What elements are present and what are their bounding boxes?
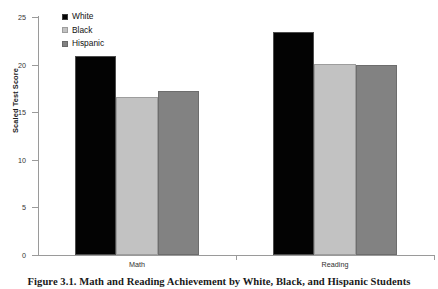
x-axis-separator-tick <box>236 255 237 260</box>
legend-swatch-icon <box>62 41 68 47</box>
bars-layer <box>38 17 434 255</box>
y-axis-tick-label: 0 <box>0 255 30 256</box>
x-axis-category-label: Math <box>38 261 236 269</box>
x-axis-separator-tick <box>434 255 435 260</box>
chart-legend: WhiteBlackHispanic <box>62 12 104 48</box>
legend-item-hispanic: Hispanic <box>62 39 104 48</box>
legend-swatch-icon <box>62 14 68 20</box>
y-axis-tick <box>32 255 38 256</box>
bar-reading-hispanic <box>356 65 398 255</box>
legend-item-black: Black <box>62 26 104 35</box>
y-axis-tick-label: 25 <box>0 17 30 18</box>
legend-item-label: Hispanic <box>72 39 104 47</box>
y-axis-tick-label-text: 0 <box>22 251 26 260</box>
y-axis-tick-label: 5 <box>0 207 30 208</box>
y-axis-title: Scaled Test Score <box>11 41 20 161</box>
bar-math-white <box>75 56 117 255</box>
figure-container: 0510152025 Scaled Test Score MathReading… <box>0 0 438 289</box>
legend-item-label: Black <box>72 26 92 34</box>
x-axis-category-label: Reading <box>236 261 434 269</box>
y-axis-tick-label-text: 5 <box>22 203 26 212</box>
y-axis-tick-label-text: 25 <box>18 13 26 22</box>
bar-reading-black <box>314 64 356 255</box>
legend-item-label: White <box>72 12 93 20</box>
legend-swatch-icon <box>62 27 68 33</box>
bar-math-black <box>116 97 158 255</box>
figure-caption: Figure 3.1. Math and Reading Achievement… <box>0 276 438 287</box>
legend-item-white: White <box>62 12 104 21</box>
bar-math-hispanic <box>158 91 200 255</box>
bar-reading-white <box>273 32 315 255</box>
